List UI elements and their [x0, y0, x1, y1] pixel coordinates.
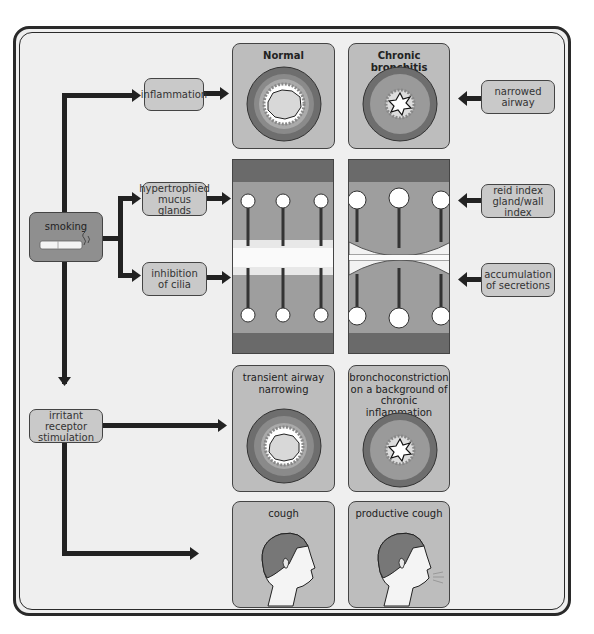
cigarette-icon [38, 233, 98, 253]
airway-cross-section-normal-icon [244, 64, 324, 144]
airway-cross-section-chronic-icon [360, 64, 440, 144]
airway-cross-section-constricted-icon [360, 410, 440, 490]
mucosa-chronic-icon [349, 160, 450, 354]
panel-productive-cough: productive cough [348, 501, 450, 608]
panel-chronic-bronchitis: Chronic bronchitis [348, 43, 450, 149]
panel-cough: cough [232, 501, 335, 608]
node-accumulation-of-secretions: accumulationof secretions [481, 263, 555, 297]
airway-cross-section-transient-icon [244, 406, 324, 486]
mucosa-normal-icon [233, 160, 334, 354]
panel-transient-airway-narrowing: transient airwaynarrowing [232, 365, 335, 492]
node-irritant-receptor-stimulation: irritant receptorstimulation [29, 409, 103, 443]
head-profile-coughing-icon [369, 526, 449, 606]
node-inhibition-of-cilia: inhibitionof cilia [142, 262, 207, 296]
tissue-section-chronic [348, 159, 450, 354]
node-hypertrophied-mucus-glands: hypertrophiedmucus glands [142, 182, 207, 216]
node-narrowed-airway: narrowedairway [481, 80, 555, 114]
node-smoking: smoking [29, 212, 103, 262]
head-profile-icon [253, 526, 323, 606]
panel-normal: Normal [232, 43, 335, 149]
node-reid-index: reid indexgland/wall index [481, 184, 555, 218]
node-inflammation: inflammation [144, 78, 204, 111]
panel-bronchoconstriction: bronchoconstrictionon a background ofchr… [348, 365, 450, 492]
tissue-section-normal [232, 159, 334, 354]
